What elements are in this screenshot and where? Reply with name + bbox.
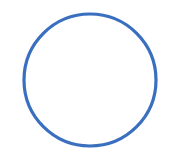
circle-graphic bbox=[0, 0, 177, 158]
circle-outline-icon bbox=[24, 14, 156, 146]
drawing-canvas bbox=[0, 0, 177, 158]
